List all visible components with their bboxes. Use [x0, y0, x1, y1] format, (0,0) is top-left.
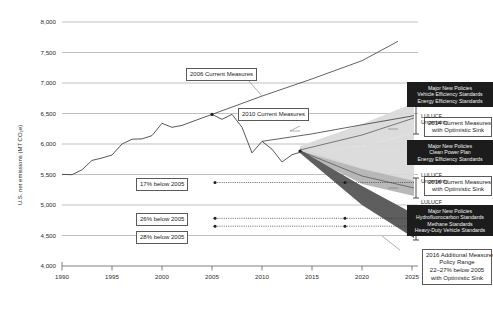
y-tick-8000: 8,000 [41, 18, 57, 25]
policy-cpp-line3: Energy Efficiency Standards [410, 156, 490, 163]
x-axis: 1990 1995 2000 2005 2010 2015 2020 2025 [55, 262, 419, 280]
callout-target-17pct[interactable]: 17% below 2005 [136, 178, 188, 191]
x-tick-2025: 2025 [405, 273, 419, 280]
lulucf-b-line2: Uncertainty [421, 178, 448, 184]
y-tick-4000: 4,000 [41, 262, 57, 269]
marker-2014-branch [298, 149, 301, 152]
callout-target-26pct[interactable]: 26% below 2005 [136, 213, 188, 226]
y-tick-4500: 4,500 [41, 232, 57, 239]
target-17-label: 17% below 2005 [140, 181, 184, 187]
x-tick-2000: 2000 [155, 273, 169, 280]
y-tick-5000: 5,000 [41, 201, 57, 208]
x-tick-2015: 2015 [305, 273, 319, 280]
callout-additional-line4: with Optimistic Sink [426, 275, 488, 283]
y-tick-5500: 5,500 [41, 171, 57, 178]
policy-box-vehicle-energy[interactable]: Major New Policies Vehicle Efficiency St… [407, 82, 493, 107]
x-tick-2005: 2005 [205, 273, 219, 280]
policy-hfc-line2: Hydrofluorocarbon Standards [410, 214, 490, 221]
policy-vehicle-line2: Vehicle Efficiency Standards [410, 91, 490, 98]
callout-2010-current-measures[interactable]: 2010 Current Measures [238, 108, 309, 121]
target-markers [214, 181, 347, 228]
x-tick-1990: 1990 [55, 273, 69, 280]
lulucf-uncertainty-a: LULUCF Uncertainty [421, 113, 448, 125]
y-axis-ticks: 8,000 7,500 7,000 6,500 6,000 5,500 5,00… [41, 18, 57, 269]
historical-emissions-line [62, 114, 300, 174]
target-28-label: 28% below 2005 [140, 234, 184, 240]
callout-additional-line3: 22–27% below 2005 [426, 267, 488, 275]
callout-2010-label: 2010 Current Measures [242, 111, 305, 117]
y-tick-6500: 6,500 [41, 110, 57, 117]
lulucf-uncertainty-b: LULUCF Uncertainty [421, 172, 448, 184]
policy-hfc-line4: Heavy-Duty Vehicle Standards [410, 227, 490, 234]
chart-figure: 8,000 7,500 7,000 6,500 6,000 5,500 5,00… [0, 0, 493, 311]
x-tick-2020: 2020 [355, 273, 369, 280]
target-26-label: 26% below 2005 [140, 216, 184, 222]
callout-2016-line2: with Optimistic Sink [428, 186, 488, 194]
y-tick-6000: 6,000 [41, 140, 57, 147]
callout-2016-additional-measures[interactable]: 2016 Additional Measures Policy Range 22… [422, 249, 492, 285]
callout-additional-line1: 2016 Additional Measures [426, 252, 488, 260]
callout-2014-line2: with Optimistic Sink [428, 127, 488, 135]
lulucf-a-line2: Uncertainty [421, 119, 448, 125]
y-tick-7000: 7,000 [41, 79, 57, 86]
callout-2006-label: 2006 Current Measures [190, 71, 253, 77]
x-tick-1995: 1995 [105, 273, 119, 280]
policy-box-clean-power[interactable]: Major New Policies Clean Power Plan Ener… [407, 140, 493, 165]
callout-additional-line2: Policy Range [426, 259, 488, 267]
marker-2005-historical [210, 113, 213, 116]
y-axis-title: U.S. net emissions (MT CO₂e) [17, 125, 23, 206]
y-tick-7500: 7,500 [41, 49, 57, 56]
policy-vehicle-line3: Energy Efficiency Standards [410, 98, 490, 105]
callout-target-28pct[interactable]: 28% below 2005 [136, 231, 188, 244]
callout-2006-current-measures[interactable]: 2006 Current Measures [186, 68, 257, 81]
policy-box-hfc-methane[interactable]: Major New Policies Hydrofluorocarbon Sta… [407, 205, 493, 236]
x-tick-2010: 2010 [255, 273, 269, 280]
